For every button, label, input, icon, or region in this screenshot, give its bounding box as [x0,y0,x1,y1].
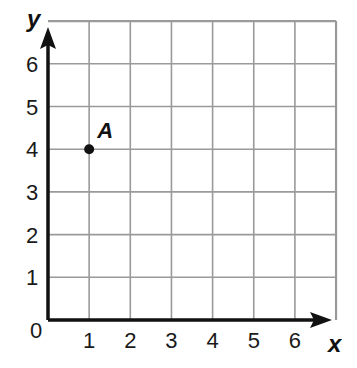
x-tick-label: 4 [206,328,218,353]
y-tick-label: 5 [26,95,38,120]
y-tick-label: 1 [26,265,38,290]
x-tick-labels: 123456 [83,328,301,353]
x-tick-label: 3 [165,328,177,353]
grid-lines [48,21,336,320]
y-tick-label: 2 [26,223,38,248]
point-marker [84,144,94,154]
coordinate-grid-chart: 123456 123456 0 x y A [0,0,357,368]
point-label: A [96,118,113,143]
origin-label: 0 [30,318,42,343]
x-tick-label: 6 [289,328,301,353]
axes [40,27,332,328]
x-axis-label: x [326,330,343,357]
y-tick-label: 6 [26,52,38,77]
y-tick-label: 4 [26,137,38,162]
y-tick-label: 3 [26,180,38,205]
y-tick-labels: 123456 [26,52,38,290]
x-tick-label: 2 [124,328,136,353]
y-axis-label: y [26,5,42,32]
x-tick-label: 1 [83,328,95,353]
x-tick-label: 5 [248,328,260,353]
